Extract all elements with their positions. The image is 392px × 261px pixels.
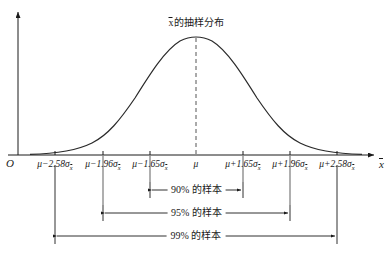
chart-title-text: 的抽样分布 — [174, 17, 224, 28]
tick-label-minus-1-96: μ−1.96σx — [85, 160, 120, 171]
origin-label: O — [6, 158, 14, 169]
tick-label-minus-2-58: μ−2.58σx — [37, 160, 72, 171]
interval-label-99: 99% 的样本 — [167, 231, 226, 241]
tick-label-plus-1-65: μ+1.65σx — [225, 160, 260, 171]
chart-title: x的抽样分布 — [169, 18, 224, 28]
x-axis-label: x — [379, 159, 384, 170]
tick-label-minus-1-65: μ−1.65σx — [132, 160, 167, 171]
sampling-distribution-figure: x的抽样分布 O x μ−2.58σx μ−1.96σx μ−1.65σx μ … — [0, 0, 392, 261]
interval-label-90: 90% 的样本 — [167, 185, 226, 195]
tick-label-plus-1-96: μ+1.96σx — [272, 160, 307, 171]
interval-label-95: 95% 的样本 — [167, 208, 226, 218]
tick-label-plus-2-58: μ+2.58σx — [319, 160, 354, 171]
figure-canvas — [0, 0, 392, 261]
tick-label-mu: μ — [194, 160, 199, 170]
